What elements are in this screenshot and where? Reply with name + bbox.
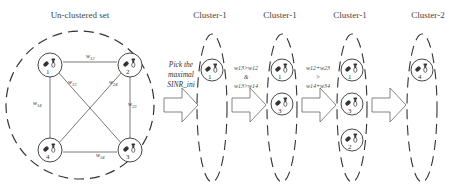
step-pick-maximal-sinr: Pick the maximal SINR_ini (158, 60, 204, 90)
node-3 (118, 138, 142, 162)
edge-label-w14: w14 (33, 100, 42, 108)
pick-line-3: SINR_ini (158, 80, 204, 90)
stage4-node-4 (411, 59, 433, 81)
stage2-node-1-label: 1 (278, 73, 282, 81)
stage2-node-3 (271, 93, 293, 115)
cond2-line-3: w14+w34 (296, 82, 340, 91)
stage3-node-1-label: 1 (348, 73, 352, 81)
stage3-node-2-label: 2 (348, 143, 352, 151)
stage3-node-3 (341, 93, 363, 115)
arrow-2 (232, 88, 266, 122)
stage2-node-3-label: 3 (278, 107, 282, 115)
step-condition-1: w13>w12 & w13>w14 (226, 64, 266, 91)
node-1-label: 1 (46, 68, 50, 76)
edge-label-w12: w12 (86, 53, 95, 61)
node-3-label: 3 (126, 153, 130, 161)
pick-line-1: Pick the (158, 60, 204, 70)
cond2-line-2: > (296, 73, 340, 82)
node-4-label: 4 (46, 153, 50, 161)
node-2-label: 2 (126, 68, 130, 76)
arrow-4 (372, 88, 406, 122)
edges (50, 62, 130, 152)
arrow-1 (164, 88, 198, 122)
pick-line-2: maximal (158, 70, 204, 80)
cond2-line-1: w12+w23 (296, 64, 340, 73)
step-condition-2: w12+w23 > w14+w34 (296, 64, 340, 91)
stage3-node-2 (341, 129, 363, 151)
node-2 (118, 53, 142, 77)
stage4-node-4-label: 4 (418, 73, 422, 81)
cond1-line-1: w13>w12 (226, 64, 266, 73)
cond1-line-2: & (226, 73, 266, 82)
cluster-1-stage1-boundary (197, 34, 227, 182)
stage1-node-1-label: 1 (208, 73, 212, 81)
node-4 (38, 138, 62, 162)
edge-label-w23: w23 (128, 101, 137, 109)
clustering-diagram: w12 w13 w24 w14 w23 w34 1 2 3 4 1 (0, 0, 456, 185)
cluster-2-boundary (407, 34, 437, 182)
edge-label-w34: w34 (96, 152, 105, 160)
cond1-line-3: w13>w14 (226, 82, 266, 91)
node-1 (38, 53, 62, 77)
arrow-3 (302, 88, 336, 122)
stage3-node-1 (341, 59, 363, 81)
stage1-node-1 (201, 59, 223, 81)
stage3-node-3-label: 3 (348, 107, 352, 115)
stage2-node-1 (271, 59, 293, 81)
